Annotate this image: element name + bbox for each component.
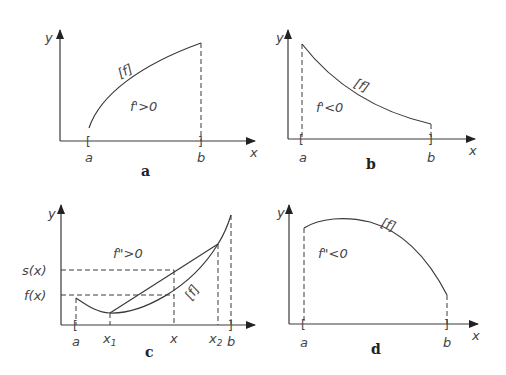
panel-a: [ ] y x a b [f] f'>0 a [44, 30, 258, 179]
panel-c: [ ] y s(x) f(x) a x1 x x2 b [f] f">0 c [22, 205, 255, 360]
x-axis-label: x [468, 143, 477, 158]
figure-canvas: [ ] y x a b [f] f'>0 a [ ] y x a b [f] f… [0, 0, 506, 375]
s-of-x-label: s(x) [22, 263, 47, 278]
panel-d: [ ] y x a b [f] f"<0 d [276, 205, 480, 357]
curve-f [76, 215, 231, 313]
panel-caption: b [366, 156, 376, 172]
b-label: b [427, 150, 435, 165]
x1-label: x1 [102, 331, 116, 348]
f-of-x-label: f(x) [24, 288, 46, 303]
bracket-right: ] [228, 319, 233, 333]
curve-label: [f] [181, 282, 202, 303]
bracket-left: [ [299, 133, 304, 147]
bracket-right: ] [198, 135, 203, 149]
x-axis-label: x [471, 328, 480, 343]
b-label: b [443, 335, 451, 350]
bracket-left: [ [73, 319, 78, 333]
bracket-right: ] [428, 133, 433, 147]
bracket-left: [ [86, 135, 91, 149]
condition-label: f'>0 [130, 99, 157, 114]
b-label: b [197, 150, 205, 165]
bracket-left: [ [301, 318, 306, 332]
bracket-right: ] [444, 318, 449, 332]
y-axis-label: y [44, 30, 53, 45]
curve-f [89, 43, 201, 128]
x2-label: x2 [208, 331, 223, 348]
x-axis-label: x [249, 145, 258, 160]
a-label: a [299, 150, 307, 165]
b-label: b [227, 334, 235, 349]
panel-b: [ ] y x a b [f] f'<0 b [275, 30, 477, 172]
x-label: x [169, 331, 178, 346]
condition-label: f'<0 [316, 100, 343, 115]
y-axis-label: y [276, 205, 285, 220]
panel-caption: a [141, 163, 150, 179]
panel-caption: d [371, 341, 381, 357]
y-axis-label: y [275, 30, 284, 45]
y-axis-label: y [47, 206, 56, 221]
a-label: a [300, 335, 308, 350]
panel-caption: c [145, 344, 154, 360]
curve-label: [f] [379, 215, 398, 234]
a-label: a [85, 150, 93, 165]
condition-label: f"<0 [318, 246, 348, 261]
a-label: a [72, 334, 80, 349]
condition-label: f">0 [113, 246, 143, 261]
